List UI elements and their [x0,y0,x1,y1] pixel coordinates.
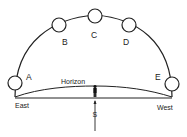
south-label: S [93,111,98,118]
sun-position-a [8,76,22,90]
observer-icon [93,85,96,97]
label-d: D [123,37,129,47]
south-arrow-head [94,100,97,104]
horizon-label: Horizon [61,78,85,85]
sun-path-diagram: A B C D E Horizon East West S [0,0,187,137]
west-label: West [157,104,173,111]
label-b: B [62,37,68,47]
label-e: E [155,72,161,82]
sun-position-b [52,18,66,32]
label-c: C [91,30,97,40]
sun-position-d [122,18,136,32]
sun-position-c [88,9,102,23]
label-a: A [26,72,32,82]
east-label: East [15,102,29,109]
sun-position-e [165,77,179,91]
sky-arc [15,15,172,97]
